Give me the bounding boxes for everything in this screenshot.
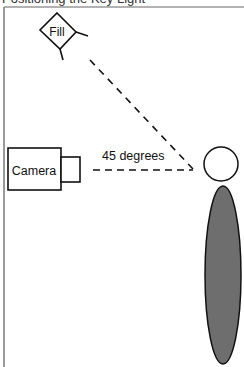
fill-light-icon: Fill [40, 13, 88, 60]
camera-icon: Camera [8, 148, 80, 190]
subject-head [204, 147, 238, 181]
fill-label: Fill [49, 25, 64, 39]
subject-figure [204, 147, 241, 364]
camera-label: Camera [12, 164, 57, 178]
subject-body [205, 186, 241, 364]
lighting-diagram: Fill Camera 45 degrees [0, 0, 244, 367]
angle-label: 45 degrees [102, 149, 165, 163]
